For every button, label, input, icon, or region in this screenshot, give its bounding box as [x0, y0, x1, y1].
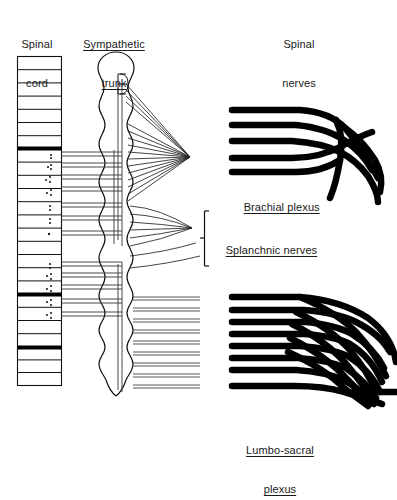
label-spinal-nerves: Spinal nerves	[268, 12, 330, 116]
label-splanchnic-nerves-text: Splanchnic nerves	[226, 244, 318, 256]
label-sympathetic-trunk-line1: Sympathetic	[83, 38, 145, 50]
label-spinal-cord: Spinal cord	[8, 12, 66, 116]
label-lumbo-sacral-plexus-line2: plexus	[264, 483, 296, 495]
label-lumbo-sacral-plexus-line1: Lumbo-sacral	[246, 444, 314, 456]
label-spinal-cord-line1: Spinal	[8, 38, 66, 51]
splanchnic-bracket	[200, 211, 209, 266]
label-brachial-plexus: Brachial plexus	[231, 188, 351, 227]
label-sympathetic-trunk: Sympathetic trunk	[70, 12, 158, 116]
label-spinal-cord-line2: cord	[8, 77, 66, 90]
label-lumbo-sacral-plexus: Lumbo-sacral plexus	[232, 418, 328, 500]
communicating-rami	[61, 152, 122, 316]
label-brachial-plexus-text: Brachial plexus	[244, 201, 320, 213]
label-splanchnic-nerves: Splanchnic nerves	[213, 231, 353, 270]
label-sympathetic-trunk-line2: trunk	[102, 77, 127, 89]
splanchnic-nerve-fan	[130, 206, 200, 268]
label-spinal-nerves-line1: Spinal	[268, 38, 330, 51]
label-spinal-nerves-line2: nerves	[268, 77, 330, 90]
lumbar-spinal-nerve-rays	[133, 297, 200, 388]
trunk-longitudinal-fibers	[114, 84, 122, 392]
lumbosacral-plexus-drawing	[232, 297, 396, 406]
